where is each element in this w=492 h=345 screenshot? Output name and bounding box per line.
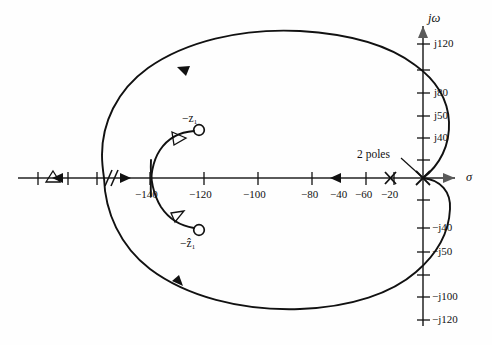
inner-locus-upper-path bbox=[151, 131, 194, 196]
outer-locus-arrowheads bbox=[172, 66, 190, 286]
sigma-axis-label: σ bbox=[466, 171, 472, 184]
sigma-axis-arrowhead bbox=[443, 173, 455, 183]
jomega-tick-label--j100: −j100 bbox=[432, 291, 458, 302]
sigma-tick-label--120: −120 bbox=[189, 189, 212, 200]
outer-locus-branch bbox=[102, 31, 450, 310]
jomega-tick-label--j120: −j120 bbox=[432, 314, 458, 325]
real-axis-arrow-left-65 bbox=[330, 173, 341, 183]
sigma-tick-label--140: −140 bbox=[135, 189, 158, 200]
two-poles-leader-line bbox=[401, 158, 422, 177]
sigma-tick-label--80: −80 bbox=[301, 189, 318, 200]
jomega-tick-label-j50: j50 bbox=[434, 110, 448, 121]
sigma-tick-label--100: −100 bbox=[243, 189, 266, 200]
inner-locus-branch bbox=[151, 131, 194, 228]
jomega-tick-label--j50: −j50 bbox=[432, 246, 452, 257]
zero-label-upper: −z₁ bbox=[182, 113, 198, 125]
sigma-tick-label--40: −40 bbox=[330, 189, 347, 200]
jomega-axis-label: jω bbox=[428, 12, 440, 25]
outer-locus-upper-path bbox=[102, 31, 449, 178]
sigma-tick-label--20: −20 bbox=[381, 189, 398, 200]
zero-label-lower: −ẑ₁ bbox=[180, 238, 196, 250]
sigma-tick-label--60: −60 bbox=[355, 189, 372, 200]
jomega-tick-label-j120: j120 bbox=[434, 38, 454, 49]
jomega-tick-label--j40: −j40 bbox=[432, 222, 452, 233]
jomega-tick-label-j80: j80 bbox=[434, 87, 448, 98]
two-poles-annotation: 2 poles bbox=[357, 149, 390, 161]
jomega-tick-label-j40: j40 bbox=[434, 132, 448, 143]
zero-label-lower-text: −ẑ₁ bbox=[180, 237, 196, 249]
outer-locus-arrow-upper bbox=[177, 66, 190, 76]
jomega-axis-arrowhead bbox=[418, 26, 428, 38]
zero-marker-upper bbox=[194, 125, 205, 136]
zero-label-upper-text: −z₁ bbox=[182, 112, 198, 124]
root-locus-figure: σ jω −140 −120 −100 −80 −60 −40 −20 j120… bbox=[0, 0, 492, 345]
zero-markers bbox=[194, 125, 205, 236]
root-locus-plot bbox=[0, 0, 492, 345]
zero-marker-lower bbox=[194, 225, 205, 236]
real-axis-arrow-right-140 bbox=[120, 173, 131, 183]
